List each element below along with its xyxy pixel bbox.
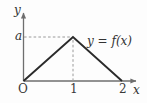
function-equation-label: y = f(x) — [87, 35, 132, 47]
x-tick-label-2: 2 — [119, 83, 127, 95]
x-tick-label-1: 1 — [70, 83, 78, 95]
y-tick-label-a: a — [15, 30, 22, 42]
origin-label: O — [18, 83, 28, 95]
x-axis-label: x — [133, 84, 140, 96]
function-graph-figure: y x a O 1 2 y = f(x) — [0, 0, 147, 103]
y-axis-label: y — [14, 4, 21, 16]
